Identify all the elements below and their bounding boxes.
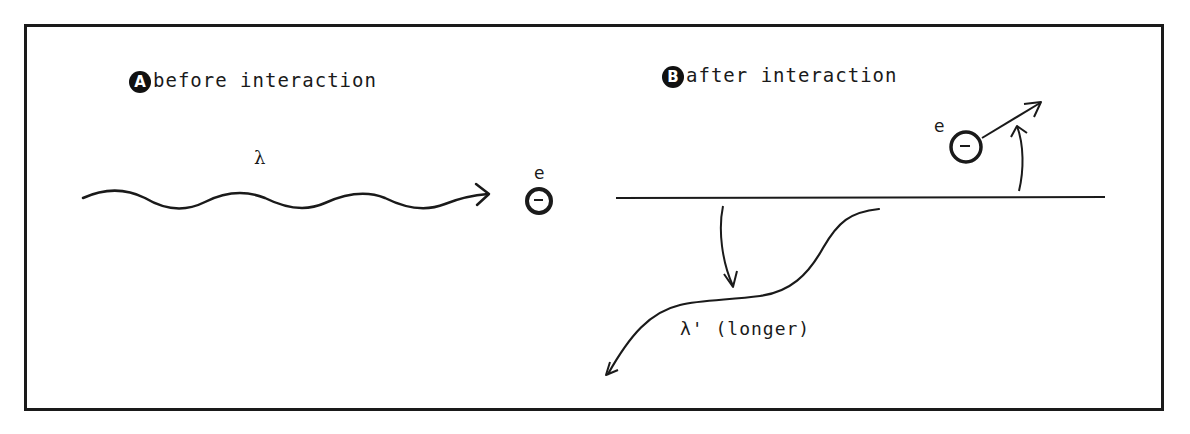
photon-deflection-arrow <box>721 206 733 286</box>
electron-recoil-arrow <box>982 103 1040 138</box>
scattered-wavelength-label: λ' (longer) <box>680 318 810 339</box>
badge-b: B <box>662 66 684 88</box>
panel-b-title: after interaction <box>686 64 897 86</box>
interaction-baseline <box>616 197 1105 198</box>
compton-scattering-diagram <box>0 0 1190 434</box>
panel-a-title: before interaction <box>153 69 377 91</box>
electron-deflection-arrow <box>1017 126 1023 191</box>
scattered-wave <box>608 209 879 374</box>
electron-a-label: e <box>534 163 544 183</box>
incident-wave <box>83 191 488 209</box>
wavelength-label: λ <box>254 147 265 168</box>
badge-a: A <box>129 71 151 93</box>
electron-b-label: e <box>934 116 944 136</box>
